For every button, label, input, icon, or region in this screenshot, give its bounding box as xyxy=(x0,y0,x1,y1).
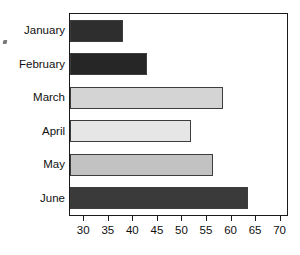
x-tick-55 xyxy=(206,216,207,221)
x-tick-35 xyxy=(108,216,109,221)
x-tick-40 xyxy=(132,216,133,221)
x-tick-70 xyxy=(280,216,281,221)
x-axis: 303540455055606570 xyxy=(0,0,300,255)
x-tick-45 xyxy=(157,216,158,221)
x-tick-50 xyxy=(181,216,182,221)
x-tick-65 xyxy=(255,216,256,221)
x-tick-label-70: 70 xyxy=(265,224,295,236)
x-tick-30 xyxy=(83,216,84,221)
bar-chart-figure: JanuaryFebruaryMarchAprilMayJune 3035404… xyxy=(0,0,300,255)
x-tick-60 xyxy=(231,216,232,221)
